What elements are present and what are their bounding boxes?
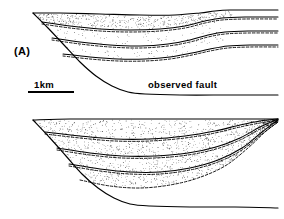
panel-b-horizon-top-surface xyxy=(33,119,278,120)
panel-a-scale-bar: 1km xyxy=(28,80,74,93)
panel-a-horizon-horizon-1-dashed xyxy=(42,19,278,32)
panel-a-horizon-horizon-3-solid xyxy=(63,45,278,59)
panel-a-scale-rule xyxy=(28,91,74,93)
panel-b-drawing xyxy=(0,108,284,219)
panel-a-horizon-horizon-3-dashed xyxy=(63,47,278,61)
panel-a-observed-fault-label: observed fault xyxy=(148,79,217,90)
panel-b: (B) 1km observed fault xyxy=(0,108,284,219)
panel-a: (A) 1km observed fault xyxy=(0,0,284,108)
panel-a-horizon-horizon-2-dashed xyxy=(52,33,278,48)
panel-b-horizon-horizon-3-dashed xyxy=(69,122,278,174)
panel-a-label: (A) xyxy=(14,46,30,57)
panel-a-scale-text: 1km xyxy=(28,80,74,90)
cross-section-figure: (A) 1km observed fault (B) 1km observed … xyxy=(0,0,284,219)
panel-a-horizon-top-surface xyxy=(33,10,278,15)
